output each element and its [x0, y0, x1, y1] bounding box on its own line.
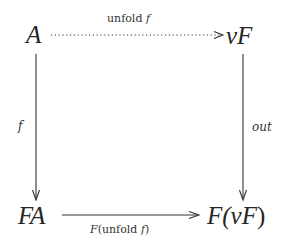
label-F-unfold-word: unfold [102, 223, 137, 236]
label-out: out [252, 121, 272, 133]
label-F-close: ) [145, 223, 149, 236]
label-F-unfold-f: F(unfold f) [90, 224, 149, 235]
node-A: A [26, 22, 41, 47]
arrow-left-f [33, 54, 40, 200]
arrow-top-unfold [51, 32, 223, 39]
node-FA: FA [18, 203, 45, 228]
node-F-nuF-suffix: ) [257, 202, 265, 229]
label-out-text: out [252, 120, 272, 134]
label-f-var: f [18, 119, 22, 133]
node-F-nuF-prefix: F( [207, 202, 231, 229]
label-unfold-f: unfold f [107, 13, 150, 24]
label-unfold-word: unfold [107, 12, 142, 25]
label-f: f [18, 120, 22, 132]
label-F-prefix: F [90, 223, 98, 236]
arrow-bottom-F-unfold [62, 212, 199, 219]
node-F-nuF: F(νF) [207, 203, 265, 228]
arrow-right-out [240, 54, 247, 200]
label-unfold-var: f [146, 12, 150, 25]
node-F-nuF-inner: νF [231, 202, 257, 229]
node-nuF: νF [226, 23, 252, 48]
